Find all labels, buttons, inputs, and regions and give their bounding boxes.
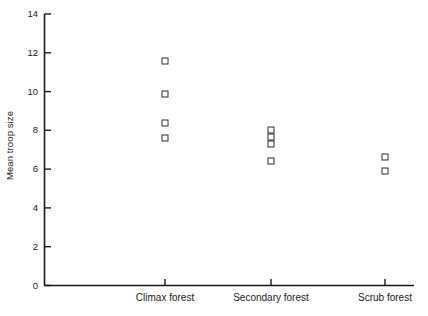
x-tick-label-secondary-forest: Secondary forest: [233, 293, 309, 303]
data-point-marker: [162, 57, 169, 64]
x-tick-label-climax-forest: Climax forest: [136, 293, 194, 303]
data-point-marker: [382, 168, 389, 175]
y-tick-label: 8: [16, 126, 38, 136]
scatter-chart: Mean troop size 14 12 10 8 6 4 2 0 Clima…: [0, 0, 428, 316]
y-tick-label: 10: [16, 87, 38, 97]
y-tick-label: 4: [16, 203, 38, 213]
y-tick-label: 14: [16, 9, 38, 19]
data-point-marker: [382, 153, 389, 160]
x-tick-label-scrub-forest: Scrub forest: [358, 293, 412, 303]
data-point-marker: [162, 91, 169, 98]
y-axis-tick-labels: 14 12 10 8 6 4 2 0: [12, 0, 38, 316]
y-tick-label: 2: [16, 242, 38, 252]
y-tick-label: 0: [16, 281, 38, 291]
data-point-marker: [268, 140, 275, 147]
data-point-marker: [162, 135, 169, 142]
data-point-marker: [268, 158, 275, 165]
y-tick-label: 12: [16, 48, 38, 58]
data-point-marker: [162, 119, 169, 126]
chart-axes: [0, 0, 428, 316]
y-tick-label: 6: [16, 164, 38, 174]
